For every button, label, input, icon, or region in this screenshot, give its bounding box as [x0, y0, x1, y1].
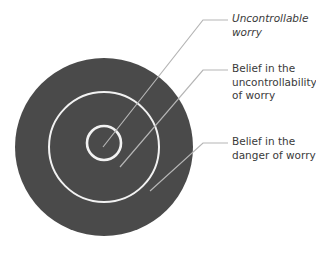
label-belief-danger: Belief in the danger of worry [232, 135, 316, 162]
label-line: uncontrollability [232, 76, 316, 90]
label-uncontrollable-worry: Uncontrollable worry [232, 12, 308, 39]
label-line: of worry [232, 89, 316, 103]
label-line: danger of worry [232, 149, 316, 163]
label-line: Belief in the [232, 62, 316, 76]
outer-circle-danger-of-worry [15, 58, 193, 236]
label-line: Belief in the [232, 135, 316, 149]
label-line: Uncontrollable [232, 12, 308, 26]
label-belief-uncontrollability: Belief in the uncontrollability of worry [232, 62, 316, 103]
label-line: worry [232, 26, 308, 40]
